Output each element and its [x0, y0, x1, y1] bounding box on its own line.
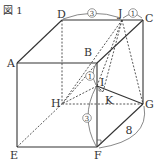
- edge-FG: [97, 104, 143, 147]
- hidden-edges: [17, 20, 143, 147]
- label-D: D: [57, 8, 66, 21]
- length-FG: 8: [126, 124, 133, 137]
- segment-JG: [122, 20, 143, 104]
- edge-BC: [97, 20, 143, 63]
- label-A: A: [6, 57, 16, 70]
- arc-FG: [99, 106, 145, 148]
- segment-IH: [62, 86, 97, 104]
- figure-title: 図 1: [3, 5, 23, 16]
- label-E: E: [10, 149, 18, 162]
- ratio-BI: 1: [88, 73, 92, 81]
- segment-BH: [62, 63, 97, 104]
- label-K: K: [105, 94, 114, 107]
- label-G: G: [145, 98, 154, 111]
- label-J: J: [117, 7, 122, 20]
- cube-diagram: 図 1: [0, 0, 157, 165]
- figure-1: 図 1: [0, 0, 157, 165]
- segment-JH: [62, 20, 122, 104]
- ratio-JC: 1: [131, 10, 135, 18]
- ratio-DJ: 3: [90, 10, 94, 18]
- ratio-IF: 3: [85, 115, 89, 123]
- label-I: I: [100, 76, 104, 89]
- edge-AD: [17, 20, 62, 63]
- right-angle-marks: [97, 88, 102, 144]
- label-B: B: [84, 46, 92, 59]
- label-H: H: [51, 97, 61, 110]
- segment-JK: [103, 20, 122, 92]
- label-C: C: [145, 12, 153, 25]
- edge-EH: [17, 104, 62, 147]
- ratio-labels: 3 1 1 3 8: [83, 9, 138, 137]
- label-F: F: [94, 149, 102, 162]
